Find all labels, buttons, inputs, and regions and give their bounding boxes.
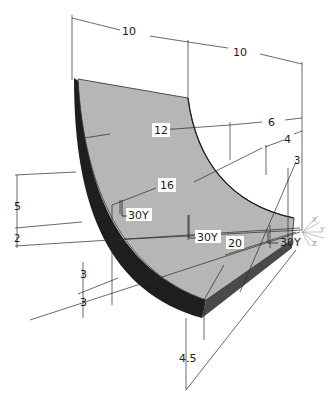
solid-body: [74, 78, 294, 318]
dim-6: 6: [268, 116, 275, 129]
dim-top-right: 10: [233, 46, 247, 59]
axis-z-label: Z: [312, 240, 317, 248]
dim-4: 4: [284, 133, 291, 146]
dim-12: 12: [154, 124, 168, 137]
technical-drawing: X Y Z 10 10 12 6 4 3 16 5 2 3 3 20 4.5 3…: [0, 0, 334, 393]
dim-16: 16: [160, 179, 174, 192]
dim-3-a: 3: [80, 268, 87, 281]
dim-top-left: 10: [122, 25, 136, 38]
dim-2: 2: [14, 233, 20, 244]
dim-20: 20: [228, 237, 242, 250]
dim-3-b: 3: [80, 296, 87, 309]
dim-4-5: 4.5: [179, 352, 197, 365]
axis-x-label: X: [312, 216, 317, 224]
label-30y-right: 30Y: [280, 236, 301, 249]
axis-y-label: Y: [319, 226, 325, 234]
label-30y-center: 30Y: [197, 231, 218, 244]
dim-3-right: 3: [294, 155, 300, 166]
label-30y-upper: 30Y: [128, 209, 149, 222]
dim-5: 5: [14, 200, 21, 213]
